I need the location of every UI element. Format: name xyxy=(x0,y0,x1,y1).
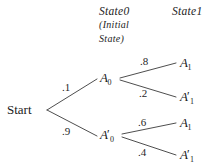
heading-initial-line1: (Initial xyxy=(99,20,129,30)
heading-state-1-value: 1 xyxy=(197,5,203,17)
weight-a0-to-a1: .8 xyxy=(140,56,148,67)
edge-start-to-a0p xyxy=(47,110,97,136)
leaf-a1-prime-lower-subscript: 1 xyxy=(190,155,194,164)
node-a0-prime: A′0 xyxy=(100,128,115,141)
probability-tree-figure: State0 (Initial State) State1 Start A0 A… xyxy=(0,0,221,167)
weight-a0-prime-to-a1: .6 xyxy=(138,117,146,128)
node-a0-prime-subscript: 0 xyxy=(110,135,114,144)
weight-a0-to-a1-prime: .2 xyxy=(139,88,147,99)
leaf-a1-prime-upper-subscript: 1 xyxy=(190,97,194,106)
root-node-start: Start xyxy=(7,103,32,116)
edge-a0p-to-l3 xyxy=(122,123,176,134)
node-a0-subscript: 0 xyxy=(107,78,111,87)
edge-start-to-a0 xyxy=(47,79,97,110)
leaf-a1-lower-subscript: 1 xyxy=(187,123,191,132)
leaf-a1-prime-upper: A′1 xyxy=(180,90,195,103)
node-a0: A0 xyxy=(100,71,112,84)
edge-a0p-to-l4 xyxy=(122,137,176,155)
leaf-a1-upper-subscript: 1 xyxy=(187,63,191,72)
heading-state-1: State1 xyxy=(172,6,203,18)
leaf-a1-upper: A1 xyxy=(180,56,192,69)
edge-a0-to-l2 xyxy=(120,80,176,97)
weight-a0-prime-to-a1-prime: .4 xyxy=(138,147,146,158)
heading-initial-line2: State) xyxy=(99,34,124,44)
leaf-a1-prime-lower: A′1 xyxy=(180,148,195,161)
heading-state-1-word: State xyxy=(172,5,197,17)
heading-state-0: State0 xyxy=(99,6,130,18)
heading-state-0-word: State xyxy=(99,5,124,17)
heading-state-0-value: 0 xyxy=(124,5,130,17)
weight-start-to-a0-prime: .9 xyxy=(62,126,70,137)
leaf-a1-lower: A1 xyxy=(180,116,192,129)
weight-start-to-a0: .1 xyxy=(62,82,70,93)
